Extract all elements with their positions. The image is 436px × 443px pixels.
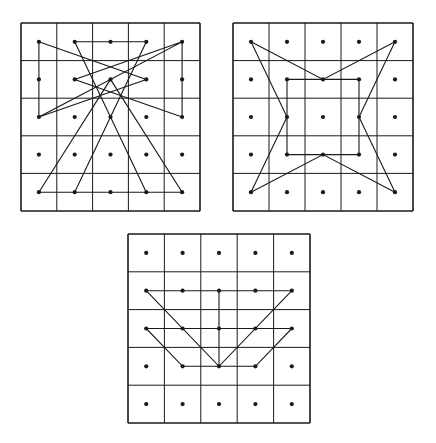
grid-dot (357, 40, 361, 44)
grid-dot (217, 364, 221, 368)
grid-dot (253, 251, 257, 255)
grid-dot (290, 402, 294, 406)
grid-dot (393, 190, 397, 194)
grid-dot (357, 190, 361, 194)
grid-dot (144, 326, 148, 330)
grid-dot (108, 153, 112, 157)
grid-dot (253, 326, 257, 330)
grid-dot (285, 153, 289, 157)
grid-dot (217, 402, 221, 406)
grid-dot (144, 402, 148, 406)
grid-dot (181, 326, 185, 330)
grid-dot (144, 115, 148, 119)
grid-dot (253, 402, 257, 406)
grid-dot (144, 289, 148, 293)
grid-dot (249, 115, 253, 119)
grid-dot (37, 40, 41, 44)
grid-dot (249, 190, 253, 194)
grid-dot (290, 289, 294, 293)
grid-dot (144, 77, 148, 81)
grid-panel-top-right (233, 23, 413, 211)
grid-dot (181, 402, 185, 406)
dot-grid (128, 234, 310, 423)
grid-dot (393, 153, 397, 157)
grid-dot (108, 190, 112, 194)
grid-dot (393, 77, 397, 81)
grid-dot (73, 190, 77, 194)
grid-dot (285, 115, 289, 119)
grid-dot (144, 40, 148, 44)
grid-dot (285, 77, 289, 81)
grid-dot (37, 190, 41, 194)
grid-dot (249, 153, 253, 157)
grid-dot (181, 364, 185, 368)
grid-dot (144, 190, 148, 194)
grid-dot (144, 153, 148, 157)
grid-dot (285, 40, 289, 44)
grid-dot (144, 364, 148, 368)
grid-panel-top-left (21, 23, 200, 211)
grid-dot (253, 289, 257, 293)
grid-dot (357, 77, 361, 81)
grid-dot (321, 40, 325, 44)
grid-dot (285, 190, 289, 194)
grid-dot (73, 40, 77, 44)
grid-dot (108, 115, 112, 119)
grid-dot (217, 289, 221, 293)
dot-grid (233, 23, 413, 211)
grid-dot (217, 251, 221, 255)
grid-panel-bottom-center (128, 234, 310, 423)
grid-dot (249, 40, 253, 44)
grid-dot (37, 115, 41, 119)
grid-dot (393, 115, 397, 119)
grid-dot (321, 153, 325, 157)
grid-dot (357, 153, 361, 157)
grid-dot (180, 190, 184, 194)
grid-dot (180, 153, 184, 157)
grid-dot (321, 77, 325, 81)
grid-dot (253, 364, 257, 368)
grid-dot (108, 77, 112, 81)
grid-dot (181, 289, 185, 293)
grid-dot (181, 251, 185, 255)
grid-dot (144, 251, 148, 255)
grid-dot (73, 77, 77, 81)
grid-dot (73, 153, 77, 157)
grid-dot (321, 190, 325, 194)
grid-dot (290, 364, 294, 368)
grid-dot (290, 326, 294, 330)
grid-dot (180, 77, 184, 81)
grid-dot (37, 153, 41, 157)
grid-dot (180, 115, 184, 119)
grid-dot (249, 77, 253, 81)
grid-dot (393, 40, 397, 44)
grid-dot (180, 40, 184, 44)
grid-dot (108, 40, 112, 44)
grid-dot (321, 115, 325, 119)
grid-dot (217, 326, 221, 330)
grid-dot (290, 251, 294, 255)
grid-dot (37, 77, 41, 81)
dot-grid (21, 23, 200, 211)
grid-dot (73, 115, 77, 119)
grid-dot (357, 115, 361, 119)
